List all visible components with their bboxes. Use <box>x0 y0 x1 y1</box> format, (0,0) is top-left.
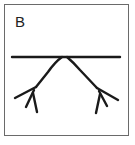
left-fork-stem <box>33 93 37 112</box>
branching-diagram <box>0 0 135 145</box>
right-arm <box>67 57 97 88</box>
right-fork-stem <box>96 94 100 113</box>
left-arm <box>36 57 62 87</box>
